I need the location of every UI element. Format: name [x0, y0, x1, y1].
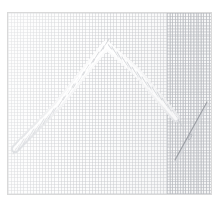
needle-thread-tail: [168, 137, 178, 159]
embroidery-scene: Embroidered line chart on aida cloth aid…: [0, 0, 219, 206]
stitch-label: running-stitch-line: [0, 0, 1, 1]
sewing-needle: [175, 102, 208, 162]
scene-title: Embroidered line chart on aida cloth: [0, 0, 1, 1]
stitched-chart-layer: [8, 13, 211, 194]
fabric-label: aida-cloth: [0, 0, 1, 1]
frame-label: fabric-frame-edge: [0, 0, 1, 1]
stitch-thread-group: [15, 45, 176, 149]
fabric-frame-edge: [7, 12, 212, 195]
needle-label: sewing-needle: [0, 0, 1, 1]
stitched-line-svg: [8, 13, 212, 195]
